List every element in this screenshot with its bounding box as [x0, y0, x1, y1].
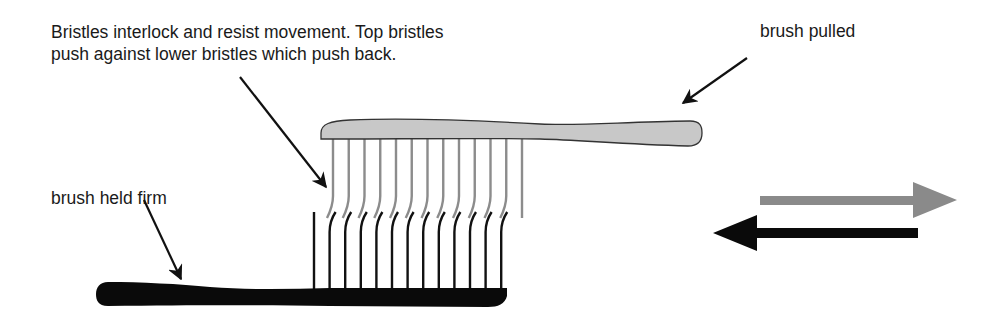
bottom-bristle	[501, 212, 507, 290]
bottom-bristle	[361, 212, 367, 290]
pull-direction-arrow	[760, 182, 957, 218]
pointer-arrow-bristles	[240, 77, 326, 187]
bottom-bristle	[454, 212, 460, 290]
bottom-bristle	[376, 212, 382, 290]
bottom-bristle	[439, 212, 445, 290]
top-brush-bristles	[327, 139, 522, 218]
top-bristle	[374, 139, 380, 218]
bottom-bristle	[423, 212, 429, 290]
top-bristle	[437, 139, 443, 218]
top-bristle	[406, 139, 412, 218]
toothbrush-diagram	[0, 0, 1008, 325]
bottom-brush-body	[96, 282, 507, 307]
top-bristle	[485, 139, 491, 218]
pointer-arrow-brush-held	[144, 200, 181, 279]
top-bristle	[359, 139, 365, 218]
top-bristle	[390, 139, 396, 218]
bottom-bristle	[408, 212, 414, 290]
top-bristle	[343, 139, 349, 218]
bottom-bristle	[486, 212, 492, 290]
resist-direction-arrow	[713, 215, 918, 251]
top-bristle	[500, 139, 506, 218]
top-bristle	[327, 139, 333, 218]
top-bristle	[469, 139, 475, 218]
bottom-bristle	[392, 212, 398, 290]
bottom-brush-bristles	[314, 212, 507, 290]
bottom-bristle	[470, 212, 476, 290]
bottom-bristle	[330, 212, 336, 290]
pointer-arrow-brush-pulled	[683, 58, 747, 103]
top-bristle	[453, 139, 459, 218]
top-brush-body	[321, 119, 702, 146]
top-bristle	[422, 139, 428, 218]
bottom-bristle	[345, 212, 351, 290]
